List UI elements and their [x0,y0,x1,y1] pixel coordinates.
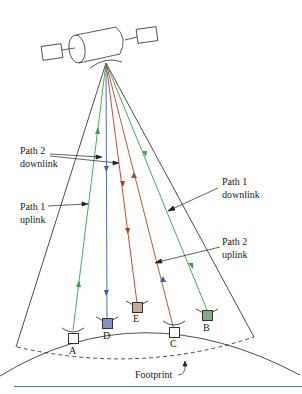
station-E [132,302,143,313]
station-label-B: B [203,322,210,333]
label-path2-uplink: Path 2 uplink [222,235,248,261]
bottom-rule [14,386,302,387]
beam-A [73,63,106,330]
station-label-C: C [170,338,177,349]
station-label-D: D [103,330,110,341]
satellite-icon [41,27,158,68]
arrowheads [76,127,193,296]
station-label-E: E [133,313,139,324]
beam-B [106,63,207,310]
label-path2-downlink: Path 2 downlink [20,144,58,170]
station-label-A: A [69,345,76,356]
footprint-boundary [17,337,254,359]
station-C [169,327,180,338]
label-path1-downlink: Path 1 downlink [222,175,260,201]
beam-D [106,63,107,318]
station-A [68,333,79,344]
beam-C [106,63,174,330]
station-D [102,318,113,329]
label-footprint: Footprint [135,368,172,381]
station-B [202,310,213,321]
label-path1-uplink: Path 1 uplink [20,200,46,226]
